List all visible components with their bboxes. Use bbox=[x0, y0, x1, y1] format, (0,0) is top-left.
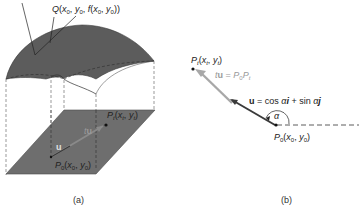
label-tu-a: tu bbox=[84, 126, 92, 136]
label-alpha: α bbox=[274, 111, 280, 121]
label-q-point: Q(x0, y0, f(x0, y0)) bbox=[52, 4, 120, 15]
label-u-b: u = cos αi + sin αj bbox=[249, 96, 321, 106]
label-pt-b: Pt(xt, yt) bbox=[191, 55, 222, 66]
label-tu-b: tu = P0Pt bbox=[215, 70, 251, 81]
caption-a: (a) bbox=[73, 195, 84, 205]
figure-b: Pt(xt, yt) tu = P0Pt u = cos αi + sin αj… bbox=[191, 55, 359, 205]
label-p0-b: P0(x0, y0) bbox=[274, 132, 310, 143]
label-u-a: u bbox=[56, 142, 62, 152]
caption-b: (b) bbox=[281, 195, 292, 205]
figure-a: Q(x0, y0, f(x0, y0)) Pt(xt, yt) tu u P0(… bbox=[6, 3, 155, 205]
directional-derivative-figure: Q(x0, y0, f(x0, y0)) Pt(xt, yt) tu u P0(… bbox=[0, 0, 359, 209]
surface bbox=[6, 25, 154, 79]
